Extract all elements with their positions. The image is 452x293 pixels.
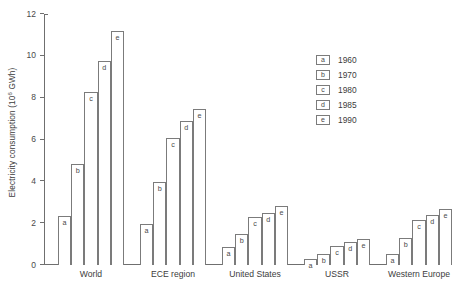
bar: a — [386, 254, 399, 266]
bar: c — [330, 246, 343, 265]
bar: b — [317, 254, 330, 266]
y-axis-label-exponent: 6 — [7, 92, 13, 96]
legend-year-label: 1980 — [338, 85, 357, 95]
bar: c — [166, 138, 179, 265]
bar: a — [304, 259, 317, 265]
y-axis-tick-label: 8 — [31, 93, 36, 102]
bar: d — [262, 213, 275, 265]
x-axis-category-label: ECE region — [151, 269, 195, 279]
bar-series-tag: e — [279, 209, 283, 216]
bar-series-tag: e — [197, 112, 201, 119]
bar-series-tag: a — [391, 257, 395, 264]
bar-series-tag: d — [266, 216, 270, 223]
bar: b — [235, 234, 248, 265]
bar: a — [140, 224, 153, 265]
y-axis-label: Electricity consumption (106 GWh) — [2, 0, 24, 265]
bar-series-tag: a — [309, 262, 313, 269]
bar: b — [399, 238, 412, 265]
y-axis-tick-label: 6 — [31, 135, 36, 144]
legend-item: b1970 — [316, 67, 386, 82]
bar-series-tag: a — [227, 250, 231, 257]
bar-series-tag: d — [348, 245, 352, 252]
y-axis-label-base: Electricity consumption (10 — [9, 96, 18, 198]
bar-series-tag: b — [76, 167, 80, 174]
bar: d — [344, 242, 357, 265]
y-axis-label-tail: GWh) — [9, 68, 18, 92]
bar: d — [426, 215, 439, 265]
x-axis-category-label: USSR — [325, 269, 349, 279]
legend-item: e1990 — [316, 112, 386, 127]
legend-year-label: 1990 — [338, 115, 357, 125]
bar-series-tag: c — [89, 95, 93, 102]
y-axis-tick-label: 2 — [31, 218, 36, 227]
legend-key-swatch: d — [316, 100, 330, 110]
legend-item: a1960 — [316, 52, 386, 67]
bar: e — [193, 109, 206, 265]
bar-series-tag: d — [430, 218, 434, 225]
bar: c — [248, 217, 261, 265]
legend-year-label: 1960 — [338, 55, 357, 65]
bar-series-tag: a — [145, 227, 149, 234]
bar-series-tag: e — [443, 212, 447, 219]
bar-series-tag: e — [115, 34, 119, 41]
bar-series-tag: e — [361, 242, 365, 249]
bar-series-tag: c — [335, 249, 339, 256]
bar: a — [58, 216, 71, 265]
legend-year-label: 1970 — [338, 70, 357, 80]
bar: e — [357, 239, 370, 265]
x-axis-category-label: United States — [229, 269, 281, 279]
legend-key-swatch: e — [316, 115, 330, 125]
y-axis-tick-label: 12 — [27, 9, 36, 18]
bar-series-tag: c — [171, 141, 175, 148]
bar: e — [111, 31, 124, 265]
legend-item: c1980 — [316, 82, 386, 97]
bar-series-tag: b — [322, 257, 326, 264]
bar-series-tag: d — [184, 124, 188, 131]
bar-series-tag: b — [158, 185, 162, 192]
bar-series-tag: c — [253, 220, 257, 227]
legend-key-swatch: b — [316, 70, 330, 80]
bar: a — [222, 247, 235, 265]
bar: c — [412, 220, 425, 265]
legend-year-label: 1985 — [338, 100, 357, 110]
bar: c — [84, 92, 97, 265]
x-axis-category-label: Western Europe — [388, 269, 450, 279]
bar-series-tag: a — [63, 219, 67, 226]
bar: e — [275, 206, 288, 265]
bar: b — [71, 164, 84, 265]
bar-series-tag: b — [404, 241, 408, 248]
y-axis-tick-label: 0 — [31, 260, 36, 269]
y-axis-tick-label: 10 — [27, 51, 36, 60]
bar: e — [439, 209, 452, 265]
bar: d — [180, 121, 193, 265]
y-axis-tick-label: 4 — [31, 177, 36, 186]
legend: a1960b1970c1980d1985e1990 — [316, 52, 386, 127]
legend-item: d1985 — [316, 97, 386, 112]
bar-series-tag: c — [417, 223, 421, 230]
bar: d — [98, 61, 111, 265]
x-axis-category-label: World — [80, 269, 102, 279]
bar: b — [153, 182, 166, 265]
legend-key-swatch: a — [316, 55, 330, 65]
legend-key-swatch: c — [316, 85, 330, 95]
bar-series-tag: d — [102, 64, 106, 71]
bar-series-tag: b — [240, 237, 244, 244]
